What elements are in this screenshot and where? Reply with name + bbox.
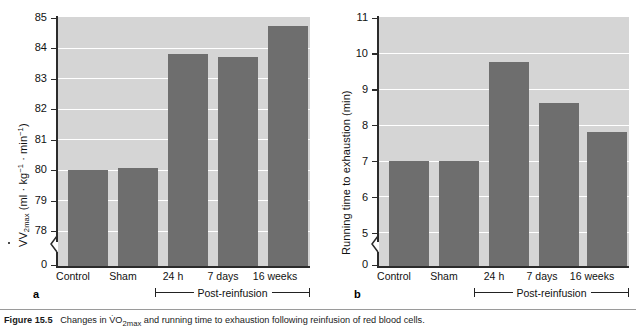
y-tick-label-11: 11 xyxy=(346,12,368,23)
y-tick-b-5 xyxy=(372,233,377,234)
y-tick-label-84: 84 xyxy=(25,42,47,53)
y-tick-label-79: 79 xyxy=(25,195,47,206)
figure-caption: Figure 15.5 Changes in V̇O2max and runni… xyxy=(4,315,632,326)
bar-24h xyxy=(168,54,208,266)
y-tick-a-83 xyxy=(51,79,56,80)
y-tick-label-78: 78 xyxy=(25,225,47,236)
x-axis-line-a xyxy=(56,266,310,268)
y-tick-b-7 xyxy=(372,161,377,162)
bar-7days-b xyxy=(539,103,579,266)
bracket-cap-right-b xyxy=(628,288,629,297)
bracket-label-b: Post-reinfusion xyxy=(512,287,590,299)
y-tick-label-zero-b: 0 xyxy=(346,259,368,270)
y-tick-label-82: 82 xyxy=(25,103,47,114)
bar-16weeks xyxy=(268,26,308,266)
y-tick-a-82 xyxy=(51,109,56,110)
y-tick-a-79 xyxy=(51,201,56,202)
y-tick-label-5: 5 xyxy=(346,228,368,239)
y-tick-b-9 xyxy=(372,89,377,90)
plot-area-b xyxy=(379,17,629,266)
y-tick-label-zero: 0 xyxy=(25,259,47,270)
y-tick-label-10: 10 xyxy=(346,48,368,59)
bar-control-b xyxy=(389,161,429,267)
figure-caption-text: Changes in V̇O2max and running time to e… xyxy=(55,315,425,325)
y-tick-label-7: 7 xyxy=(346,156,368,167)
bracket-label: Post-reinfusion xyxy=(193,287,271,299)
gridline-b-10 xyxy=(379,53,629,54)
y-tick-b-10 xyxy=(372,53,377,54)
x-tick-label-16weeks: 16 weeks xyxy=(242,271,308,282)
plot-area-a xyxy=(58,17,310,266)
y-tick-a-81 xyxy=(51,140,56,141)
post-reinfusion-bracket-b: Post-reinfusion xyxy=(474,287,629,299)
y-tick-a-80 xyxy=(51,170,56,171)
bracket-cap-left-b xyxy=(474,288,475,297)
bar-24h-b xyxy=(489,62,529,266)
bracket-cap-left xyxy=(155,288,156,297)
bar-control xyxy=(68,170,108,267)
panel-label-a: a xyxy=(33,288,39,300)
y-tick-label-9: 9 xyxy=(346,84,368,95)
caption-divider xyxy=(0,309,636,310)
figure-container: VVOV2max (ml · kg−1 · min−1) 85 84 83 82… xyxy=(0,0,636,326)
y-tick-label-83: 83 xyxy=(25,73,47,84)
y-tick-b-8 xyxy=(372,125,377,126)
y-tick-a-85 xyxy=(51,18,56,19)
y-tick-label-80: 80 xyxy=(25,164,47,175)
y-tick-label-81: 81 xyxy=(25,134,47,145)
y-tick-label-8: 8 xyxy=(346,120,368,131)
y-tick-b-6 xyxy=(372,197,377,198)
x-axis-line-b xyxy=(377,266,629,268)
y-tick-label-85: 85 xyxy=(25,12,47,23)
bar-sham-b xyxy=(439,161,479,267)
y-tick-a-78 xyxy=(51,231,56,232)
y-tick-a-84 xyxy=(51,48,56,49)
panel-label-b: b xyxy=(354,288,361,300)
y-tick-b-11 xyxy=(372,18,377,19)
bar-sham xyxy=(118,168,158,266)
bracket-cap-right xyxy=(309,288,310,297)
bar-7days xyxy=(218,57,258,266)
bar-16weeks-b xyxy=(587,132,627,266)
x-tick-label-16weeks-b: 16 weeks xyxy=(559,271,625,282)
figure-caption-label: Figure 15.5 xyxy=(4,315,53,325)
chart-panel-b: Running time to exhaustion (min) 11 10 9… xyxy=(318,0,636,305)
y-tick-label-6: 6 xyxy=(346,192,368,203)
post-reinfusion-bracket-a: Post-reinfusion xyxy=(155,287,310,299)
chart-panel-a: VVOV2max (ml · kg−1 · min−1) 85 84 83 82… xyxy=(0,0,318,305)
